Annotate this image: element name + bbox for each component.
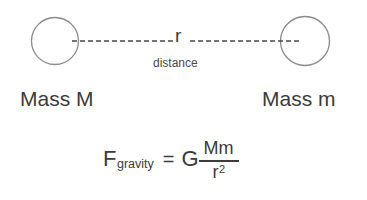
mass-product-over-r-squared-fraction: Mm r2 xyxy=(199,139,239,182)
denominator-base: r xyxy=(213,163,219,182)
fraction-denominator: r2 xyxy=(213,163,225,182)
gravity-diagram-figure: r distance Mass M Mass m Fgravity = G Mm… xyxy=(0,0,367,200)
gravity-formula: Fgravity = G Mm r2 xyxy=(103,138,239,181)
force-term: Fgravity xyxy=(103,146,154,172)
gravitational-constant-symbol: G xyxy=(181,146,198,172)
fraction-numerator: Mm xyxy=(202,139,234,158)
separation-symbol-label: r xyxy=(175,26,181,45)
fraction-bar xyxy=(199,160,239,162)
force-symbol: F xyxy=(103,146,116,172)
equals-sign: = xyxy=(163,148,175,171)
distance-caption-label: distance xyxy=(153,57,198,69)
left-mass-label: Mass M xyxy=(20,88,94,109)
force-subscript: gravity xyxy=(117,157,154,171)
left-mass-circle xyxy=(32,18,79,65)
right-mass-label: Mass m xyxy=(262,88,336,109)
denominator-exponent: 2 xyxy=(219,164,225,176)
